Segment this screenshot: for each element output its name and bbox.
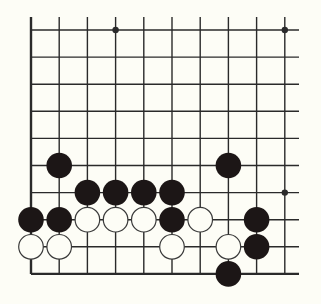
white-stone-icon [188,207,213,232]
black-stone-icon [244,234,270,260]
black-stone-icon [103,180,129,206]
white-stone-icon [103,207,128,232]
star-point-icon [112,27,118,33]
white-stone-icon [19,235,44,260]
white-stone-icon [216,235,241,260]
black-stone-icon [159,207,185,233]
black-stone-icon [46,153,72,179]
black-stone-icon [216,153,242,179]
white-stone-icon [75,207,100,232]
black-stone-icon [131,180,157,206]
star-point-icon [282,27,288,33]
black-stone-icon [18,207,44,233]
go-board [0,0,321,304]
star-point-icon [282,189,288,195]
white-stone-icon [47,235,72,260]
black-stone-icon [46,207,72,233]
black-stone-icon [75,180,101,206]
black-stone-icon [244,207,270,233]
white-stone-icon [160,235,185,260]
black-stone-icon [216,261,242,287]
white-stone-icon [132,207,157,232]
black-stone-icon [159,180,185,206]
